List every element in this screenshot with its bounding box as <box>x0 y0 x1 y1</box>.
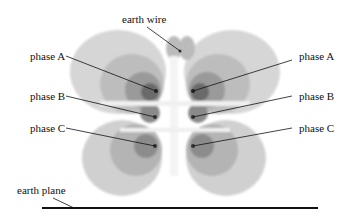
phase-c-right-label: phase C <box>299 122 334 134</box>
phase-c-left-label: phase C <box>30 122 65 134</box>
phase-a-left-label: phase A <box>30 50 65 62</box>
earth-wire-label: earth wire <box>122 13 166 25</box>
earth-plane-label: earth plane <box>17 184 66 196</box>
phase-a-right-label: phase A <box>299 50 334 62</box>
field-contours <box>70 30 280 196</box>
phase-b-left-label: phase B <box>30 90 65 102</box>
field-diagram: earth wire phase A phase B phase C phase… <box>0 0 349 222</box>
phase-b-right-label: phase B <box>299 90 334 102</box>
